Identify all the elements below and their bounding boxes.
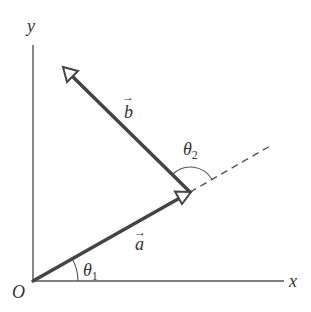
theta2-label: θ2 xyxy=(183,139,198,162)
vector-a-label: a xyxy=(135,234,144,254)
theta1-arc xyxy=(72,259,78,282)
theta1-subscript: 1 xyxy=(92,269,98,283)
theta2-subscript: 2 xyxy=(192,148,198,162)
vector-a-extension-dashed xyxy=(190,145,272,192)
theta2-arc xyxy=(173,167,212,180)
theta1-label: θ1 xyxy=(83,260,98,283)
vector-b xyxy=(63,67,190,192)
origin-label: O xyxy=(12,282,25,302)
vector-b-label: b xyxy=(124,102,133,122)
vector-diagram: y x O → a → b θ1 θ2 xyxy=(0,0,311,312)
x-axis-label: x xyxy=(288,271,297,291)
theta1-symbol: θ xyxy=(83,260,92,280)
vector-a-arrowhead xyxy=(175,192,191,205)
y-axis-label: y xyxy=(25,16,35,36)
theta2-symbol: θ xyxy=(183,139,192,159)
vector-a xyxy=(33,192,191,282)
